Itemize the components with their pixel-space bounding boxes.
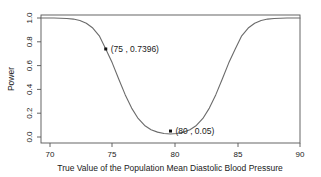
y-tick-label: 0.2 — [25, 107, 34, 119]
power-curve-figure: 70 75 80 85 90 0.0 0.2 0.4 0.6 0.8 1.0 P… — [0, 0, 321, 177]
y-tick-label: 0.0 — [25, 131, 34, 143]
x-axis-tick-labels: 70 75 80 85 90 — [46, 150, 305, 159]
x-tick-label: 75 — [108, 150, 117, 159]
x-tick-label: 90 — [296, 150, 305, 159]
y-axis-title: Power — [6, 67, 16, 91]
data-point-marker-75 — [104, 47, 107, 50]
chart-canvas: 70 75 80 85 90 0.0 0.2 0.4 0.6 0.8 1.0 P… — [0, 0, 321, 177]
y-axis-tick-labels: 0.0 0.2 0.4 0.6 0.8 1.0 — [25, 12, 34, 143]
y-tick-label: 0.4 — [25, 83, 34, 95]
power-curve-line — [41, 18, 300, 134]
plot-frame — [41, 15, 300, 143]
y-tick-label: 0.6 — [25, 59, 34, 71]
x-axis-title: True Value of the Population Mean Diasto… — [57, 163, 283, 173]
y-tick-label: 0.8 — [25, 36, 34, 48]
y-tick-label: 1.0 — [25, 12, 34, 24]
annotation-label-80: (80 , 0.05) — [176, 126, 215, 136]
x-tick-label: 70 — [46, 150, 55, 159]
x-tick-label: 80 — [171, 150, 180, 159]
x-axis-ticks — [50, 143, 300, 147]
y-axis-ticks — [37, 18, 41, 137]
x-tick-label: 85 — [234, 150, 243, 159]
data-point-marker-80 — [169, 130, 172, 133]
annotation-label-75: (75 , 0.7396) — [111, 44, 159, 54]
